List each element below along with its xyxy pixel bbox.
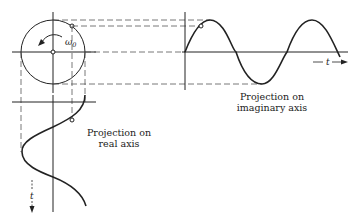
imaginary-caption-line1: Projection on: [232, 91, 312, 102]
imaginary-time-label: t: [326, 57, 330, 67]
real-projection-point: [70, 118, 74, 122]
imaginary-projection-point: [199, 24, 203, 28]
rotation-arrowhead-icon: [38, 39, 45, 46]
real-time-label: t: [30, 191, 34, 201]
omega-label: ω0: [65, 37, 76, 49]
real-caption-line1: Projection on: [84, 127, 154, 138]
real-projection-caption: Projection on real axis: [84, 127, 154, 149]
real-axis-plot: t: [12, 95, 96, 213]
time-arrow-down-icon: [30, 206, 35, 213]
imaginary-projection-caption: Projection on imaginary axis: [232, 91, 312, 113]
center-point: [51, 50, 55, 54]
imaginary-caption-line2: imaginary axis: [232, 102, 312, 113]
time-arrow-right-icon: [341, 60, 348, 65]
cosine-wave: [22, 95, 86, 206]
phasor-circle-group: ω0: [12, 12, 96, 93]
imaginary-axis-plot: t: [182, 12, 348, 90]
real-caption-line2: real axis: [84, 138, 154, 149]
rotation-arrow-icon: [42, 35, 62, 42]
